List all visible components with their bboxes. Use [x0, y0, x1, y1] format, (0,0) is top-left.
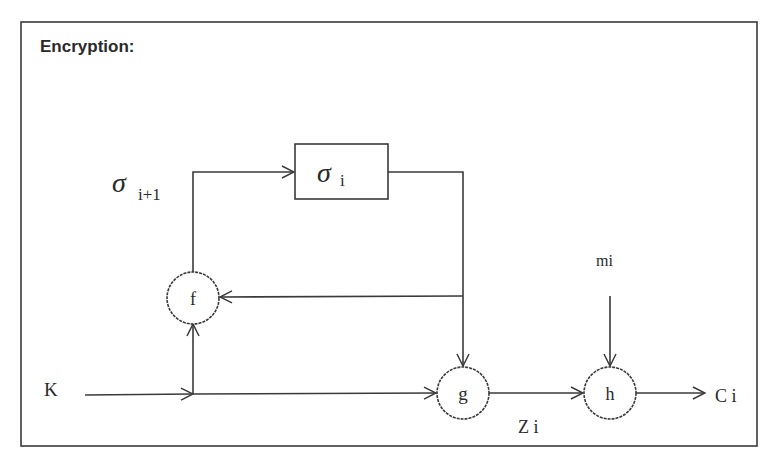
keystream-label: Z i — [518, 417, 539, 437]
state-feedback-to-f-path — [220, 296, 463, 297]
g-label: g — [458, 383, 468, 404]
key-label: K — [44, 379, 58, 400]
ciphertext-label: C i — [715, 386, 737, 406]
state-symbol: σ — [317, 157, 332, 188]
diagram-title: Encryption: — [40, 37, 134, 56]
state-subscript: i — [340, 171, 345, 190]
state-to-g-path — [388, 172, 463, 366]
message-label: mi — [596, 252, 613, 269]
f-label: f — [190, 289, 196, 309]
next-state-path — [193, 172, 294, 272]
next-state-subscript: i+1 — [138, 185, 161, 204]
diagram-frame — [21, 22, 757, 446]
key-to-g-path — [193, 393, 436, 394]
key-input-arrow — [85, 394, 193, 395]
encryption-diagram: Encryption: σ i+1 σ i K f g Z i mi h C i — [0, 0, 769, 454]
next-state-symbol: σ — [112, 167, 127, 198]
h-label: h — [606, 384, 615, 404]
